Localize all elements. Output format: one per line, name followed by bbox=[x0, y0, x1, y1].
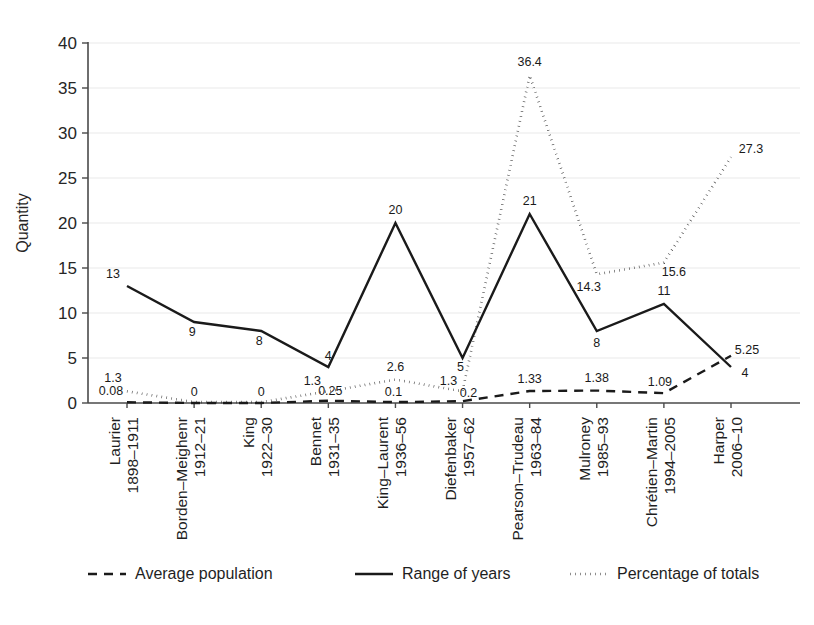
legend-label-0: Average population bbox=[135, 565, 273, 582]
series-line-0 bbox=[127, 356, 731, 403]
x-axis-label-years: 1994–2005 bbox=[661, 417, 678, 495]
x-axis-label-years: 1898–1911 bbox=[124, 417, 141, 493]
y-axis-tick-label: 40 bbox=[58, 34, 77, 53]
x-axis-label-name: King–Laurent bbox=[374, 416, 391, 509]
point-value-label: 1.33 bbox=[517, 372, 541, 386]
point-value-label: 4 bbox=[325, 349, 332, 363]
series-line-2 bbox=[127, 75, 731, 402]
y-axis-tick-label: 5 bbox=[68, 349, 77, 368]
series-line-1 bbox=[127, 214, 731, 367]
y-axis-title: Quantity bbox=[14, 193, 31, 253]
point-value-label: 1.3 bbox=[304, 374, 321, 388]
point-value-label: 5.25 bbox=[735, 343, 759, 357]
x-axis-label-years: 1985–93 bbox=[594, 417, 611, 477]
point-value-label: 4 bbox=[742, 366, 749, 380]
chart-page: 0510152025303540 Quantity 0.08000.250.10… bbox=[0, 0, 814, 625]
x-axis-label-name: Mulroney bbox=[576, 417, 593, 481]
y-axis: 0510152025303540 bbox=[58, 34, 88, 413]
series-lines bbox=[127, 75, 731, 403]
point-value-label: 1.09 bbox=[648, 375, 672, 389]
y-axis-tick-label: 25 bbox=[58, 169, 77, 188]
point-value-label: 15.6 bbox=[662, 265, 686, 279]
point-value-label: 36.4 bbox=[517, 55, 541, 69]
point-value-label: 1.38 bbox=[585, 371, 609, 385]
y-axis-tick-label: 0 bbox=[68, 394, 77, 413]
point-value-label: 0.1 bbox=[385, 385, 402, 399]
y-axis-tick-label: 35 bbox=[58, 79, 77, 98]
point-value-label: 0 bbox=[258, 385, 265, 399]
y-axis-tick-label: 30 bbox=[58, 124, 77, 143]
point-value-labels: 0.08000.250.10.21.331.381.095.2513984205… bbox=[99, 55, 763, 400]
y-axis-tick-label: 10 bbox=[58, 304, 77, 323]
point-value-label: 5 bbox=[457, 360, 464, 374]
x-axis-label-name: Pearson–Trudeau bbox=[509, 417, 526, 541]
legend-label-2: Percentage of totals bbox=[617, 565, 759, 582]
chart-legend: Average populationRange of yearsPercenta… bbox=[88, 565, 759, 582]
point-value-label: 8 bbox=[593, 336, 600, 350]
x-axis-label-name: King bbox=[240, 417, 257, 448]
point-value-label: 20 bbox=[388, 203, 402, 217]
gridlines bbox=[88, 43, 800, 358]
point-value-label: 0.2 bbox=[460, 386, 477, 400]
x-axis-label-name: Bennet bbox=[307, 416, 324, 466]
x-axis-label-name: Harper bbox=[710, 417, 727, 464]
x-axis-label-years: 1912–21 bbox=[191, 417, 208, 477]
point-value-label: 8 bbox=[256, 334, 263, 348]
x-axis-label-years: 1936–56 bbox=[392, 417, 409, 477]
x-axis-label-years: 1963–84 bbox=[527, 417, 544, 478]
y-axis-tick-label: 15 bbox=[58, 259, 77, 278]
point-value-label: 21 bbox=[523, 194, 537, 208]
point-value-label: 0.08 bbox=[99, 384, 123, 398]
point-value-label: 1.3 bbox=[440, 374, 457, 388]
x-axis-label-name: Laurier bbox=[106, 417, 123, 465]
x-axis-label-years: 1931–35 bbox=[325, 417, 342, 477]
x-axis-label-name: Chrétien–Martin bbox=[643, 417, 660, 527]
legend-label-1: Range of years bbox=[402, 565, 511, 582]
x-axis-label-years: 2006–10 bbox=[728, 417, 745, 478]
point-value-label: 0 bbox=[191, 385, 198, 399]
point-value-label: 0.25 bbox=[318, 384, 342, 398]
x-axis-label-name: Diefenbaker bbox=[442, 417, 459, 501]
y-axis-title-text: Quantity bbox=[14, 193, 31, 253]
point-value-label: 14.3 bbox=[577, 280, 601, 294]
x-axis-label-years: 1957–62 bbox=[460, 417, 477, 477]
x-axis-label-years: 1922–30 bbox=[258, 417, 275, 478]
point-value-label: 1.3 bbox=[104, 371, 121, 385]
line-chart: 0510152025303540 Quantity 0.08000.250.10… bbox=[0, 0, 814, 625]
y-axis-tick-label: 20 bbox=[58, 214, 77, 233]
x-axis-category-labels: Laurier1898–1911Borden–Meighenr1912–21Ki… bbox=[106, 416, 745, 540]
point-value-label: 13 bbox=[106, 267, 120, 281]
x-axis-label-name: Borden–Meighenr bbox=[173, 417, 190, 540]
point-value-label: 11 bbox=[657, 284, 670, 298]
point-value-label: 27.3 bbox=[739, 142, 763, 156]
point-value-label: 2.6 bbox=[387, 360, 404, 374]
point-value-label: 9 bbox=[189, 325, 196, 339]
